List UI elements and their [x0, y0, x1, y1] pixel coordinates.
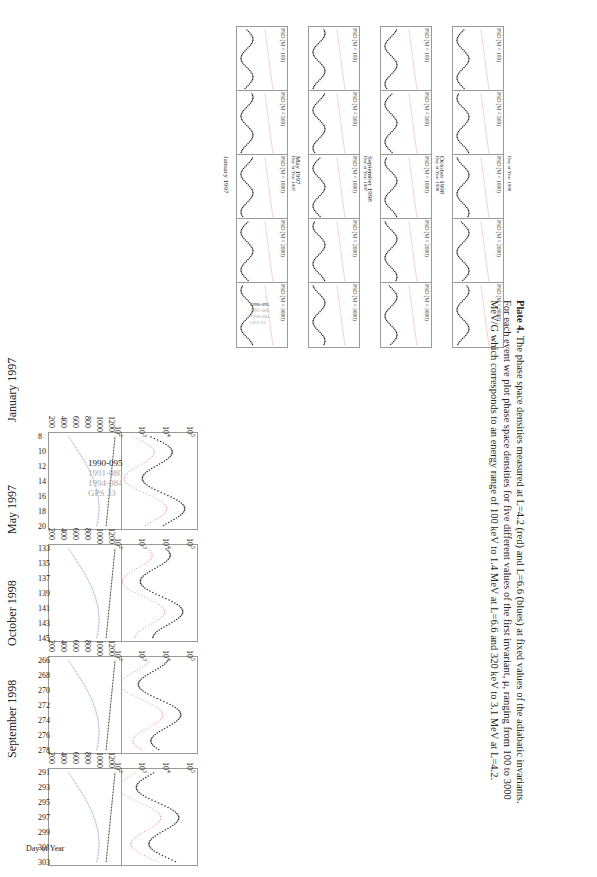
day-tick: 272: [38, 701, 50, 710]
e-tick: 800: [83, 528, 92, 540]
day-tick: 299: [38, 828, 50, 837]
day-tick: 139: [38, 589, 50, 598]
day-tick: 270: [38, 686, 50, 695]
c-tick: 104: [161, 762, 172, 773]
e-tick: 1200: [107, 640, 116, 656]
psd-axis-label: PSD (M = 1000): [280, 156, 286, 193]
legend-entry: GPS 33: [88, 488, 123, 498]
psd-axis-label: PSD (M = 3000): [280, 284, 286, 321]
psd-axis-label: PSD (M = 3000): [352, 284, 358, 321]
panel-september-1998: 1051041031021200100080060040020029129329…: [8, 764, 198, 872]
psd-axis-label: PSD (M = 100): [424, 28, 430, 62]
legend-entry: 1994-084: [88, 478, 123, 488]
e-tick: 200: [47, 640, 56, 652]
psd-axis-label: PSD (M = 1000): [352, 156, 358, 193]
psd-axis-label: PSD (M = 500): [424, 92, 430, 126]
day-tick: 18: [38, 507, 46, 516]
day-tick: 291: [38, 768, 50, 777]
e-tick: 600: [71, 416, 80, 428]
panel-january-1997: 1051041031021200100080060040020081012141…: [8, 428, 198, 536]
c-plot: [120, 544, 198, 642]
c-plot: [120, 656, 198, 754]
e-tick: 400: [59, 528, 68, 540]
c-tick: 104: [161, 650, 172, 661]
e-tick: 800: [83, 752, 92, 764]
day-tick: 266: [38, 656, 50, 665]
panel-may-1997: 1051041031021200100080060040020013313513…: [8, 540, 198, 648]
legend-entry: GPS 33: [250, 320, 269, 326]
day-tick: 293: [38, 783, 50, 792]
psd-axis-label: PSD (M = 500): [352, 92, 358, 126]
e-tick: 1000: [95, 752, 104, 768]
psd-axis-label: PSD (M = 2000): [496, 220, 502, 257]
figure-caption: Plate 4. The phase space densities measu…: [508, 0, 528, 877]
x-axis-label: Day of Year: [26, 844, 64, 853]
event-label: October 1998: [5, 580, 20, 646]
event-label: January 1997: [5, 358, 20, 422]
plate-column-title: October 1998: [438, 156, 446, 194]
e-tick: 1200: [107, 752, 116, 768]
c-tick: 103: [137, 538, 148, 549]
e-tick: 1200: [107, 416, 116, 432]
day-tick: 10: [38, 447, 46, 456]
c-tick: 103: [137, 762, 148, 773]
day-tick: 297: [38, 813, 50, 822]
day-tick: 141: [38, 604, 50, 613]
psd-axis-label: PSD (M = 3000): [424, 284, 430, 321]
c-tick: 103: [137, 650, 148, 661]
day-tick: 274: [38, 716, 50, 725]
day-tick: 268: [38, 671, 50, 680]
plate-column-title: September 1998: [366, 156, 374, 202]
legend: 1990-0951991-0801994-084GPS 33: [250, 302, 269, 326]
day-tick: 133: [38, 544, 50, 553]
e-tick: 1000: [95, 640, 104, 656]
day-tick: 16: [38, 492, 46, 501]
c-tick: 104: [161, 538, 172, 549]
e-tick: 1000: [95, 528, 104, 544]
psd-axis-label: PSD (M = 500): [280, 92, 286, 126]
e-tick: 200: [47, 416, 56, 428]
energy-plot: [48, 544, 122, 642]
caption-line-3: MeV/G which corresponds to an energy ran…: [489, 300, 500, 780]
event-label: September 1998: [5, 680, 20, 758]
e-tick: 400: [59, 752, 68, 764]
plate-column-title: January 1997: [222, 156, 230, 194]
event-label: May 1997: [5, 485, 20, 534]
energy-plot: [48, 656, 122, 754]
psd-axis-label: PSD (M = 2000): [424, 220, 430, 257]
day-tick: 276: [38, 731, 50, 740]
caption-line-1: Plate 4. The phase space densities measu…: [515, 300, 526, 804]
day-tick: 303: [38, 858, 50, 867]
day-tick: 20: [38, 522, 46, 531]
legend: 1990-0951991-0801994-084GPS 33: [88, 458, 123, 498]
c-plot: [120, 432, 198, 530]
caption-line-2: For each event we plot phase space densi…: [502, 300, 513, 800]
c-tick: 104: [161, 426, 172, 437]
e-tick: 800: [83, 640, 92, 652]
e-tick: 1000: [95, 416, 104, 432]
day-tick: 137: [38, 574, 50, 583]
legend-entry: 1990-095: [88, 458, 123, 468]
day-tick: 14: [38, 477, 46, 486]
psd-axis-label: PSD (M = 2000): [280, 220, 286, 257]
e-tick: 600: [71, 752, 80, 764]
c-tick: 103: [137, 426, 148, 437]
day-tick: 12: [38, 462, 46, 471]
psd-axis-label: PSD (M = 100): [496, 28, 502, 62]
e-tick: 800: [83, 416, 92, 428]
c-tick: 105: [185, 426, 196, 437]
psd-axis-label: PSD (M = 2000): [352, 220, 358, 257]
legend-entry: 1991-080: [88, 468, 123, 478]
e-tick: 400: [59, 640, 68, 652]
panel-october-1998: 1051041031021200100080060040020026626827…: [8, 652, 198, 760]
c-tick: 105: [185, 762, 196, 773]
day-tick: 143: [38, 619, 50, 628]
c-tick: 105: [185, 650, 196, 661]
e-tick: 200: [47, 528, 56, 540]
psd-axis-label: PSD (M = 500): [496, 92, 502, 126]
e-tick: 1200: [107, 528, 116, 544]
c-tick: 105: [185, 538, 196, 549]
psd-axis-label: PSD (M = 100): [352, 28, 358, 62]
day-tick: 295: [38, 798, 50, 807]
e-tick: 400: [59, 416, 68, 428]
